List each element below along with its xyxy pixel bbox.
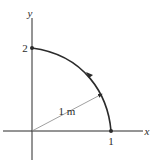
diagram-canvas: y x 1 2 1 m [0, 0, 160, 163]
tick-label-y-two: 2 [22, 42, 28, 54]
y-axis-label: y [27, 7, 33, 19]
radius-label: 1 m [59, 105, 76, 117]
point-on-x-axis [109, 129, 113, 133]
curve-path [32, 48, 111, 131]
x-axis-label: x [144, 125, 150, 137]
point-on-y-axis [30, 46, 34, 50]
tick-label-x-one: 1 [108, 135, 114, 147]
